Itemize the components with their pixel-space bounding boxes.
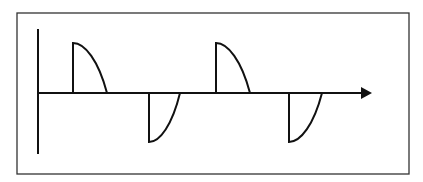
pulse-1-positive	[73, 43, 107, 93]
pulse-4-negative	[289, 93, 322, 142]
waveform-diagram	[0, 0, 423, 182]
pulse-3-positive	[216, 43, 250, 93]
pulse-2-negative	[149, 93, 180, 142]
time-axis-arrow-icon	[361, 87, 372, 99]
